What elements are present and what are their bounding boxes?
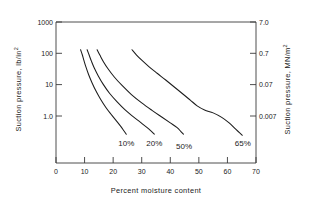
annotation-50pct: 50% bbox=[176, 142, 192, 151]
right-tick-label-0-7: 0.7 bbox=[259, 50, 269, 57]
left-axis-tick-labels: 1000 100 10 1.0 bbox=[37, 19, 53, 120]
annotation-10pct: 10% bbox=[118, 139, 134, 148]
left-tick-label-1000: 1000 bbox=[37, 19, 53, 26]
x-axis-tick-labels: 010203040506070 bbox=[54, 168, 260, 175]
x-tick-label-50: 50 bbox=[195, 168, 203, 175]
x-tick-label-70: 70 bbox=[252, 168, 260, 175]
x-axis-ticks bbox=[56, 157, 256, 163]
x-tick-label-10: 10 bbox=[81, 168, 89, 175]
series-annotations: 10%20%50%65% bbox=[118, 139, 251, 151]
left-tick-label-100: 100 bbox=[41, 50, 53, 57]
data-curves bbox=[81, 50, 243, 136]
x-tick-label-40: 40 bbox=[166, 168, 174, 175]
suction-pressure-vs-moisture-chart: 1000 100 10 1.0 7.0 0.7 0.07 0.007 01020… bbox=[0, 0, 309, 205]
y-axis-right-title-exponent: 2 bbox=[282, 44, 288, 47]
x-tick-label-60: 60 bbox=[224, 168, 232, 175]
right-tick-label-0-007: 0.007 bbox=[259, 113, 277, 120]
annotation-20pct: 20% bbox=[146, 139, 162, 148]
right-axis-tick-labels: 7.0 0.7 0.07 0.007 bbox=[259, 19, 277, 120]
x-axis-title: Percent moisture content bbox=[56, 186, 256, 195]
y-axis-left-title-text: Suction pressure, lb/in bbox=[14, 50, 23, 131]
x-tick-label-20: 20 bbox=[109, 168, 117, 175]
y-axis-right-title: Suction pressure, MN/m2 bbox=[282, 24, 292, 154]
annotation-65pct: 65% bbox=[235, 139, 251, 148]
x-tick-label-30: 30 bbox=[138, 168, 146, 175]
chart-figure: 1000 100 10 1.0 7.0 0.7 0.07 0.007 01020… bbox=[0, 0, 309, 205]
right-axis-ticks bbox=[250, 22, 256, 116]
right-tick-label-7: 7.0 bbox=[259, 19, 269, 26]
x-tick-label-0: 0 bbox=[54, 168, 58, 175]
left-tick-label-10: 10 bbox=[45, 81, 53, 88]
left-axis-ticks bbox=[56, 22, 62, 116]
left-tick-label-1: 1.0 bbox=[43, 113, 53, 120]
curve-65pct bbox=[132, 50, 242, 136]
y-axis-left-title-exponent: 2 bbox=[13, 47, 19, 50]
right-tick-label-0-07: 0.07 bbox=[259, 81, 273, 88]
y-axis-left-title: Suction pressure, lb/in2 bbox=[13, 24, 23, 154]
y-axis-right-title-text: Suction pressure, MN/m bbox=[283, 47, 292, 134]
